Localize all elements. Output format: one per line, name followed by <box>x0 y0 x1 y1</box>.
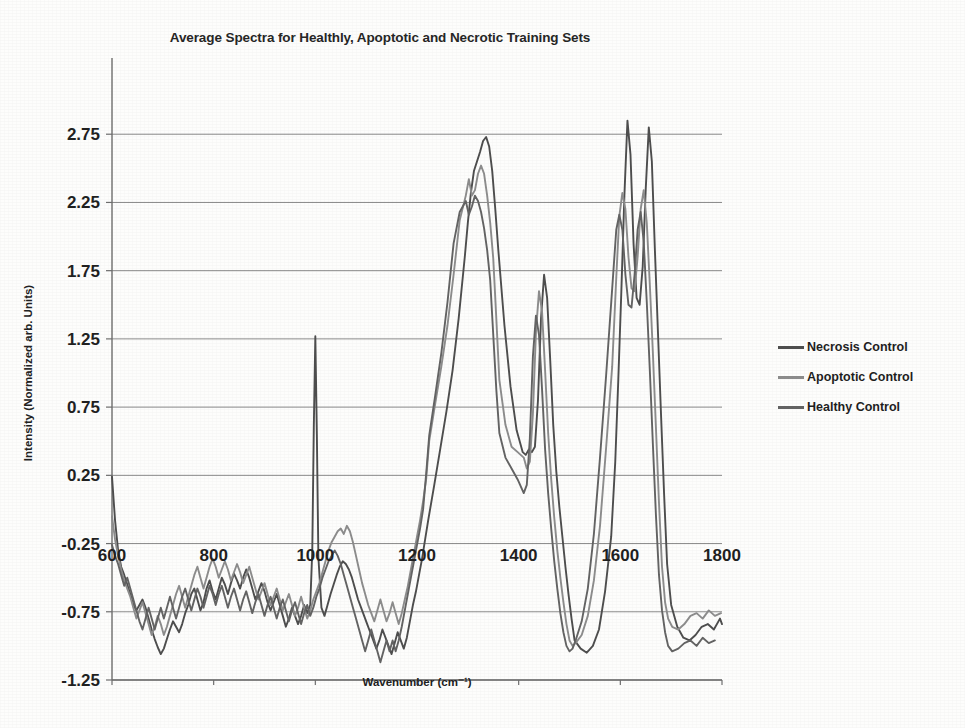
x-tick-label: 1400 <box>500 546 538 565</box>
y-tick-label: 1.75 <box>67 262 100 281</box>
spectrum-line <box>112 196 715 663</box>
x-tick-label: 600 <box>98 546 126 565</box>
x-tick-label: 1000 <box>296 546 334 565</box>
legend-label-necrosis: Necrosis Control <box>807 340 908 354</box>
x-tick-label: 1600 <box>601 546 639 565</box>
chart-legend: Necrosis Control Apoptotic Control Healt… <box>778 332 958 422</box>
legend-label-healthy: Healthy Control <box>807 400 900 414</box>
legend-line-healthy <box>778 406 804 409</box>
chart-figure: Average Spectra for Healthly, Apoptotic … <box>0 0 965 728</box>
x-tick-label: 800 <box>199 546 227 565</box>
spectra-series <box>112 121 722 663</box>
x-axis-title: Wavenumber (cm⁻¹) <box>362 676 471 688</box>
y-tick-label: 1.25 <box>67 330 100 349</box>
y-tick-label: 2.25 <box>67 193 100 212</box>
y-tick-label: -1.25 <box>61 671 100 690</box>
x-axis-tick-labels: 60080010001200140016001800 <box>98 546 741 565</box>
spectrum-line <box>112 121 722 655</box>
y-tick-label: -0.75 <box>61 603 100 622</box>
legend-item-necrosis[interactable]: Necrosis Control <box>778 332 958 362</box>
legend-item-apoptotic[interactable]: Apoptotic Control <box>778 362 958 392</box>
spectrum-line <box>112 166 721 646</box>
y-tick-label: 0.75 <box>67 398 100 417</box>
legend-line-apoptotic <box>778 376 804 379</box>
legend-item-healthy[interactable]: Healthy Control <box>778 392 958 422</box>
x-tick-label: 1200 <box>398 546 436 565</box>
y-axis-tick-labels: 2.752.251.751.250.750.25-0.25-0.75-1.25 <box>61 125 100 690</box>
y-tick-label: 0.25 <box>67 466 100 485</box>
x-tick-label: 1800 <box>703 546 741 565</box>
y-tick-label: -0.25 <box>61 535 100 554</box>
y-tick-label: 2.75 <box>67 125 100 144</box>
legend-label-apoptotic: Apoptotic Control <box>807 370 913 384</box>
y-axis-title: Intensity (Normalized arb. Units) <box>22 285 34 462</box>
legend-line-necrosis <box>778 346 804 349</box>
